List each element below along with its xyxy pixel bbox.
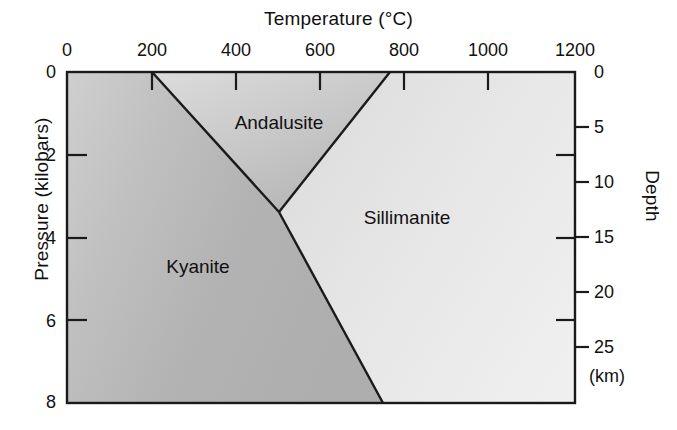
field-label-kyanite: Kyanite [138,256,258,278]
field-label-andalusite: Andalusite [208,112,350,134]
phase-diagram-figure: Temperature (°C) Pressure (kilobars) Dep… [0,0,677,430]
y-axis-ticks-km [575,127,589,347]
field-label-sillimanite: Sillimanite [337,207,477,229]
